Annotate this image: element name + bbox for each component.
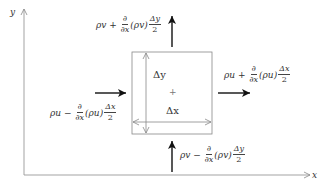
dx-label: Δx: [166, 106, 179, 116]
center-mark: +: [169, 88, 177, 97]
bottom-flux-expression: ρv − ∂∂x (ρv) Δy2: [180, 145, 246, 164]
right-flux-expression: ρu + ∂∂x (ρu) Δx2: [224, 65, 291, 84]
top-flux-expression: ρv + ∂∂x (ρv) Δy2: [96, 15, 162, 34]
dy-label: Δy: [153, 70, 166, 80]
y-axis-label: y: [10, 8, 15, 17]
left-flux-expression: ρu − ∂∂x (ρu) Δx2: [50, 103, 117, 122]
x-axis-label: x: [312, 171, 317, 180]
